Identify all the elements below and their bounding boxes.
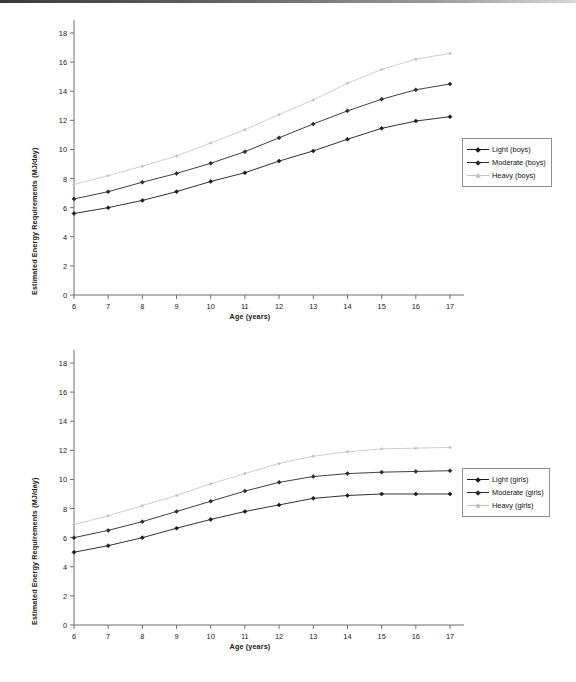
series-marker-1 [277,480,281,484]
series-marker-2 [209,482,212,485]
series-marker-2 [243,472,246,475]
y-tick-label: 14 [59,417,67,426]
y-tick-label: 0 [63,291,67,300]
series-marker-0 [243,171,247,175]
x-tick-label: 11 [241,302,249,311]
series-marker-0 [106,206,110,210]
y-tick-label: 18 [59,359,67,368]
series-marker-0 [209,517,213,521]
series-marker-0 [448,492,452,496]
series-marker-0 [311,149,315,153]
series-marker-1 [414,469,418,473]
chart-panel-girls: 02468101214161867891011121314151617 Esti… [0,340,576,670]
series-marker-1 [311,475,315,479]
series-marker-1 [380,470,384,474]
y-tick-label: 6 [63,534,67,543]
series-marker-0 [448,115,452,119]
series-marker-1 [209,161,213,165]
series-marker-2 [175,154,178,157]
legend-item[interactable]: Heavy (girls) [467,499,544,512]
x-tick-label: 7 [106,632,110,641]
x-tick-label: 8 [140,632,144,641]
series-marker-2 [73,183,76,186]
x-tick-label: 7 [106,302,110,311]
legend-marker-icon [467,171,489,180]
series-line-1 [74,84,450,199]
x-tick-label: 17 [446,302,454,311]
legend-boys: Light (boys)Moderate (boys)Heavy (boys) [462,138,552,187]
series-marker-2 [243,128,246,131]
series-marker-1 [72,536,76,540]
y-axis-title-boys: Estimated Energy Requirements (MJ/day) [30,148,39,296]
legend-girls: Light (girls)Moderate (girls)Heavy (girl… [462,468,550,517]
y-tick-label: 8 [63,505,67,514]
series-marker-2 [346,450,349,453]
y-tick-label: 12 [59,446,67,455]
series-marker-0 [72,550,76,554]
series-marker-2 [73,523,76,526]
series-marker-2 [278,113,281,116]
series-marker-1 [106,528,110,532]
x-tick-label: 16 [412,632,420,641]
series-marker-1 [209,499,213,503]
series-marker-2 [346,82,349,85]
x-tick-label: 14 [343,302,351,311]
series-marker-0 [106,544,110,548]
x-axis-title-girls: Age (years) [0,642,500,651]
series-marker-1 [380,97,384,101]
series-marker-0 [311,496,315,500]
scan-top-edge [0,0,576,3]
series-marker-1 [243,150,247,154]
series-marker-2 [278,462,281,465]
series-marker-0 [414,492,418,496]
x-tick-label: 13 [309,632,317,641]
series-line-0 [74,494,450,552]
series-marker-1 [448,469,452,473]
legend-marker-icon [467,158,489,167]
series-marker-1 [106,190,110,194]
legend-item[interactable]: Moderate (boys) [467,156,546,169]
series-marker-0 [380,492,384,496]
legend-item-label: Heavy (boys) [492,171,536,180]
series-marker-1 [277,136,281,140]
series-marker-0 [414,119,418,123]
y-tick-label: 6 [63,204,67,213]
series-marker-2 [449,52,452,55]
series-marker-2 [175,494,178,497]
series-marker-0 [175,190,179,194]
series-marker-0 [277,159,281,163]
x-tick-label: 13 [309,302,317,311]
x-tick-label: 9 [174,632,178,641]
series-marker-1 [175,509,179,513]
x-tick-label: 6 [72,302,76,311]
y-tick-label: 18 [59,29,67,38]
series-marker-0 [140,198,144,202]
legend-item[interactable]: Moderate (girls) [467,486,544,499]
chart-panel-boys: 02468101214161867891011121314151617 Esti… [0,10,576,340]
series-marker-0 [140,536,144,540]
x-tick-label: 10 [207,632,215,641]
legend-marker-icon [467,501,489,510]
legend-item[interactable]: Light (girls) [467,473,544,486]
legend-item[interactable]: Light (boys) [467,143,546,156]
series-marker-0 [175,526,179,530]
series-line-0 [74,117,450,214]
legend-item-label: Light (boys) [492,145,531,154]
series-line-2 [74,447,450,524]
series-marker-2 [141,504,144,507]
x-tick-label: 15 [378,632,386,641]
y-tick-label: 0 [63,621,67,630]
x-tick-label: 15 [378,302,386,311]
series-marker-1 [175,171,179,175]
x-tick-label: 9 [174,302,178,311]
series-marker-2 [312,98,315,101]
legend-item[interactable]: Heavy (boys) [467,169,546,182]
series-marker-0 [277,503,281,507]
y-tick-label: 10 [59,475,67,484]
series-marker-2 [414,58,417,61]
series-marker-0 [380,126,384,130]
x-tick-label: 8 [140,302,144,311]
series-marker-1 [448,82,452,86]
series-marker-2 [107,514,110,517]
y-tick-label: 4 [63,233,67,242]
